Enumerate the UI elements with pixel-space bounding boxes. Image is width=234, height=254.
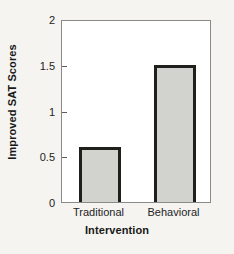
y-tick-mark	[62, 66, 67, 67]
bar-behavioral	[154, 65, 196, 202]
x-axis-tick-labels: TraditionalBehavioral	[61, 206, 211, 222]
y-tick-label: 1.5	[24, 60, 55, 72]
y-tick-label: 1	[24, 106, 55, 118]
x-tick-label: Traditional	[73, 206, 124, 218]
y-tick-mark	[62, 112, 67, 113]
y-axis-title: Improved SAT Scores	[0, 0, 24, 203]
bar-chart-figure: Improved SAT Scores 00.511.52 Traditiona…	[0, 0, 234, 254]
y-axis-tick-labels: 00.511.52	[24, 20, 55, 203]
y-tick-label: 0.5	[24, 151, 55, 163]
y-tick-label: 2	[24, 14, 55, 26]
y-tick-label: 0	[24, 197, 55, 209]
y-tick-mark	[62, 157, 67, 158]
y-axis-title-text: Improved SAT Scores	[6, 44, 18, 159]
bar-traditional	[79, 147, 121, 202]
x-axis-title: Intervention	[0, 224, 234, 236]
x-tick-label: Behavioral	[148, 206, 200, 218]
plot-area	[61, 20, 211, 203]
